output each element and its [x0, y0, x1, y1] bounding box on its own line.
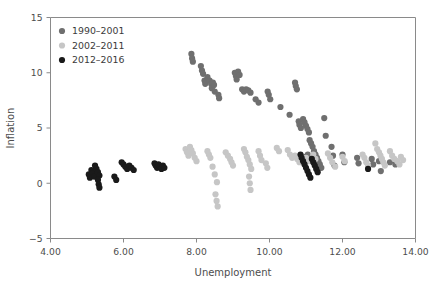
y-tick-label: 0	[37, 178, 43, 189]
data-point	[213, 198, 219, 204]
data-point	[236, 72, 242, 78]
scatter-chart-figure: 4.006.008.0010.0012.0014.00 −5051015 Une…	[0, 0, 432, 290]
data-point	[370, 161, 376, 167]
data-point	[216, 95, 222, 101]
legend-label-2[interactable]: 2002–2011	[72, 40, 124, 51]
data-point	[161, 165, 167, 171]
x-tick-label: 14.00	[402, 246, 428, 257]
data-point	[211, 82, 217, 88]
data-point	[307, 175, 313, 181]
data-point	[342, 158, 348, 164]
data-point	[355, 160, 361, 166]
data-point	[306, 129, 312, 135]
y-tick-label: 15	[31, 12, 43, 23]
y-tick-label: −5	[29, 233, 43, 244]
data-point	[294, 86, 300, 92]
data-point	[369, 156, 375, 162]
data-point	[286, 112, 292, 118]
data-point	[212, 171, 218, 177]
data-point	[190, 59, 196, 65]
data-point	[267, 96, 273, 102]
data-point	[113, 177, 119, 183]
legend-marker-2[interactable]	[59, 42, 65, 48]
data-point	[354, 155, 360, 161]
data-point	[246, 174, 252, 180]
legend-label-3[interactable]: 2012–2016	[72, 54, 124, 65]
x-tick-label: 4.00	[40, 246, 61, 257]
data-point	[207, 155, 213, 161]
data-point	[372, 140, 378, 146]
data-point	[321, 115, 327, 121]
data-point	[247, 187, 253, 193]
data-point	[365, 166, 371, 172]
data-point	[209, 164, 215, 170]
data-point	[193, 158, 199, 164]
data-point	[378, 168, 384, 174]
legend-marker-1[interactable]	[59, 28, 65, 34]
y-axis-ticks	[47, 18, 51, 239]
data-point	[214, 179, 220, 185]
data-point	[382, 162, 388, 168]
data-point	[277, 104, 283, 110]
data-point	[247, 90, 253, 96]
series-2	[182, 140, 406, 209]
data-point	[255, 99, 261, 105]
x-tick-label: 6.00	[113, 246, 134, 257]
data-point	[276, 148, 282, 154]
x-axis-tick-labels: 4.006.008.0010.0012.0014.00	[40, 246, 429, 257]
x-tick-label: 10.00	[256, 246, 282, 257]
data-point	[264, 165, 270, 171]
scatter-plot-canvas: 4.006.008.0010.0012.0014.00 −5051015 Une…	[0, 0, 432, 290]
data-point	[215, 203, 221, 209]
data-point	[248, 166, 254, 172]
legend-label-1[interactable]: 1990–2001	[72, 25, 124, 36]
data-point	[212, 191, 218, 197]
x-axis-title: Unemployment	[195, 267, 272, 278]
data-point	[332, 164, 338, 170]
data-point	[400, 157, 406, 163]
data-point	[131, 167, 137, 173]
y-tick-label: 5	[37, 122, 43, 133]
data-point	[230, 162, 236, 168]
data-series-layer	[86, 51, 406, 210]
y-axis-tick-labels: −5051015	[29, 12, 43, 244]
x-tick-label: 12.00	[329, 246, 355, 257]
x-tick-label: 8.00	[186, 246, 207, 257]
data-point	[247, 180, 253, 186]
legend-marker-3[interactable]	[59, 57, 65, 63]
data-point	[96, 185, 102, 191]
data-point	[328, 144, 334, 150]
data-point	[315, 169, 321, 175]
x-axis-ticks	[51, 239, 416, 243]
data-point	[323, 133, 329, 139]
chart-legend: 1990–20012002–20112012–2016	[59, 25, 125, 65]
y-tick-label: 10	[31, 67, 43, 78]
y-axis-title: Inflation	[5, 108, 16, 149]
